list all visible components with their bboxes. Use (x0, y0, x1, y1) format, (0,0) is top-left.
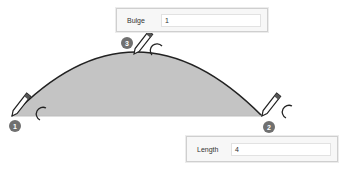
length-input-box: Length 4 (186, 136, 338, 162)
step-badge-2: 2 (263, 121, 275, 133)
rotate-cursor-icon (282, 105, 292, 118)
bulge-input-box: Bulge 1 (116, 8, 268, 32)
pencil-icon (260, 93, 281, 117)
svg-text:2: 2 (267, 124, 271, 131)
step-badge-3: 3 (121, 37, 133, 49)
step-badge-1: 1 (9, 120, 21, 132)
svg-text:3: 3 (125, 40, 129, 47)
length-input[interactable]: 4 (231, 143, 331, 156)
svg-text:1: 1 (13, 123, 17, 130)
bulge-input[interactable]: 1 (161, 14, 261, 27)
length-label: Length (187, 146, 231, 153)
bulge-label: Bulge (117, 17, 161, 24)
